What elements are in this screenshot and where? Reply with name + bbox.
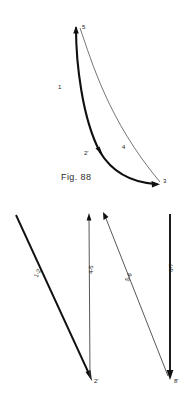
figure-88: 5 1 4 2' 3 Fig. 88 (0, 0, 193, 200)
fig88-thick-curve-2prime-to-3 (100, 152, 155, 184)
fig88-point-label-2-prime: 2' (84, 150, 88, 156)
figure-88-drawing (0, 0, 193, 200)
fig88-arrowhead-point-2-prime (96, 147, 104, 156)
figure-89-drawing (0, 200, 193, 401)
fig88-thick-curve-1 (76, 28, 100, 152)
fig89-arrow-4-5-shaft (89, 218, 90, 378)
fig89-arrow-4-5-head (87, 213, 92, 221)
fig89-point-label-8-prime: 8' (174, 378, 178, 384)
fig88-arrowhead-point-5 (73, 26, 79, 34)
fig88-segment-label-4: 4 (122, 144, 125, 150)
figure-88-caption: Fig. 88 (61, 172, 91, 182)
fig88-arrowhead-point-3 (152, 181, 161, 188)
fig88-segment-label-1: 1 (58, 84, 61, 90)
fig89-arrow-5-6-shaft (105, 216, 168, 376)
fig89-arrow-label-6-7: 6-7 (168, 263, 174, 272)
figure-89: 1-2 4-5 5-6 6-7 2' 8' Fig. 89 (0, 200, 193, 401)
fig89-arrow-1-2-shaft (16, 215, 90, 376)
fig89-point-label-2-prime: 2' (94, 378, 98, 384)
fig88-point-label-3: 3 (163, 178, 166, 184)
fig89-arrow-label-4-5: 4-5 (88, 265, 94, 274)
fig88-point-label-5: 5 (82, 24, 85, 30)
fig89-arrow-1-2-head (86, 370, 93, 381)
fig88-thin-curve-4 (80, 28, 160, 182)
